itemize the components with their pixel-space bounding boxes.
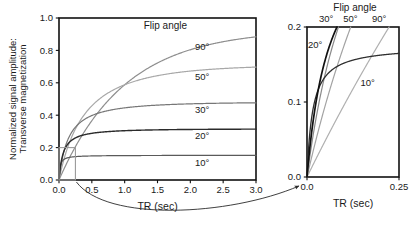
legend-title: Flip angle	[144, 20, 188, 31]
curve-30deg	[59, 103, 256, 180]
series-label-10deg: 10°	[195, 157, 210, 168]
inset-top-label-90deg: 90°	[372, 13, 387, 24]
y-tick-label: 0.0	[40, 174, 53, 185]
curve-20deg	[59, 129, 256, 180]
x-tick-label: 0.0	[52, 184, 65, 195]
curve-10deg	[307, 53, 399, 177]
main-chart-panel: 0.00.51.01.52.02.53.00.00.20.40.60.81.09…	[7, 12, 263, 212]
inset-series-label-10deg: 10°	[361, 77, 376, 88]
figure-container: 0.00.51.01.52.02.53.00.00.20.40.60.81.09…	[0, 0, 417, 225]
x-tick-label: 1.5	[151, 184, 164, 195]
x-tick-label: 2.0	[184, 184, 197, 195]
y-tick-label: 1.0	[40, 12, 53, 23]
x-tick-label: 1.0	[118, 184, 131, 195]
curve-50deg	[59, 67, 256, 180]
detail-chart-panel: 0.00.250.00.10.230°50°90°Flip angle20°10…	[288, 2, 408, 209]
y-tick-label: 0.6	[40, 77, 53, 88]
y-axis-title-line2: Transverse magnetization	[17, 45, 28, 154]
x-tick-label: 0.25	[390, 181, 409, 192]
inset-x-axis-title: TR (sec)	[333, 197, 373, 209]
x-tick-label: 0.5	[85, 184, 98, 195]
y-tick-label: 0.8	[40, 45, 53, 56]
curve-90deg	[59, 37, 256, 180]
x-tick-label: 0.0	[300, 181, 313, 192]
y-tick-label: 0.4	[40, 110, 53, 121]
y-tick-label: 0.1	[288, 96, 301, 107]
y-tick-label: 0.2	[40, 142, 53, 153]
series-label-30deg: 30°	[195, 104, 210, 115]
series-label-50deg: 50°	[195, 71, 210, 82]
inset-legend-title: Flip angle	[333, 2, 377, 13]
x-tick-label: 2.5	[217, 184, 230, 195]
x-tick-label: 3.0	[249, 184, 262, 195]
y-tick-label: 0.2	[288, 21, 301, 32]
y-tick-label: 0.0	[288, 171, 301, 182]
series-label-90deg: 90°	[195, 41, 210, 52]
series-label-20deg: 20°	[195, 130, 210, 141]
inset-top-label-30deg: 30°	[319, 13, 334, 24]
figure-svg: 0.00.51.01.52.02.53.00.00.20.40.60.81.09…	[0, 0, 417, 225]
inset-top-label-50deg: 50°	[343, 13, 358, 24]
inset-series-label-20deg: 20°	[308, 39, 323, 50]
curve-10deg	[59, 155, 256, 180]
